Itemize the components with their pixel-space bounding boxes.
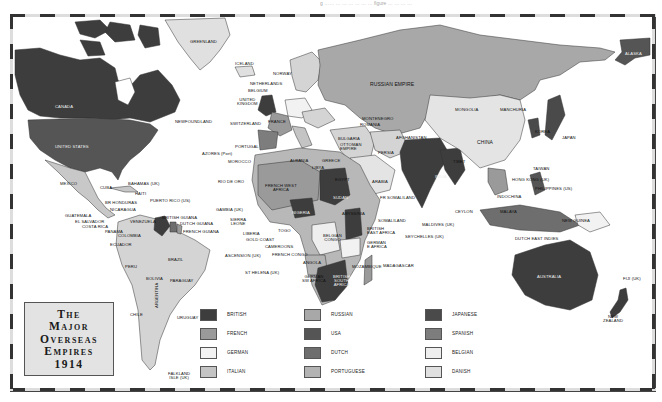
title-line-4: Empires <box>25 345 113 358</box>
label-british-east-africa: BRITISH EAST AFRICA <box>367 227 395 235</box>
label-albania: ALBANIA <box>290 159 308 163</box>
legend-label: USA <box>331 331 341 336</box>
label-paraguay: PARAGUAY <box>170 279 193 283</box>
label-korea: KOREA <box>535 130 550 134</box>
label-russian-empire: RUSSIAN EMPIRE <box>370 82 414 87</box>
label-sierra-leone: SIERRA LEONE <box>230 218 246 226</box>
label-british-guiana: BRITISH GUIANA <box>162 216 197 220</box>
label-abyssinia: ABYSSINIA <box>342 212 365 216</box>
label-dutch-guiana: DUTCH GUIANA <box>180 222 213 226</box>
label-new-zealand: NEW ZEALAND <box>603 315 623 323</box>
label-brazil: BRAZIL <box>168 258 183 262</box>
region-iceland <box>235 66 255 77</box>
label-nigeria: NIGERIA <box>292 211 310 215</box>
region-usa <box>28 118 158 180</box>
label-fr-somaliland: FR SOMALILAND <box>380 196 415 200</box>
label-egypt: EGYPT <box>335 178 350 182</box>
label-seychelles: SEYCHELLES (UK) <box>405 235 444 239</box>
legend-item-spanish: SPANISH <box>425 327 473 340</box>
label-haiti: HAITI <box>135 192 146 196</box>
region-korea <box>528 118 540 138</box>
label-mozambique: MOZAMBIQUE <box>352 265 382 269</box>
label-china: CHINA <box>477 140 493 145</box>
label-newfoundland: NEWFOUNDLAND <box>175 120 212 124</box>
label-german-sw-africa: GERMAN SW AFRICA <box>302 275 326 283</box>
label-arabia: ARABIA <box>372 180 388 184</box>
legend-item-usa: USA <box>304 327 341 340</box>
legend-swatch <box>200 309 217 321</box>
label-libya: LIBYA <box>312 166 324 170</box>
legend-swatch <box>200 366 217 378</box>
region-madagascar <box>364 255 372 285</box>
label-french-guiana: FRENCH GUIANA <box>183 230 219 234</box>
region-italy <box>292 126 312 148</box>
title-line-5: 1914 <box>25 358 113 371</box>
legend-label: DANISH <box>452 369 471 374</box>
label-belgian-congo: BELGIAN CONGO <box>323 234 342 242</box>
label-malaya: MALAYA <box>500 210 517 214</box>
label-gold-coast: GOLD COAST <box>246 238 274 242</box>
legend-label: SPANISH <box>452 331 473 336</box>
page-top-text: g …… … … … … … … figure … … … … <box>320 0 660 6</box>
legend-swatch <box>304 366 321 378</box>
legend-label: BELGIAN <box>452 350 473 355</box>
label-madagascar: MADAGASCAR <box>383 264 414 268</box>
label-belgium: BELGIUM <box>248 89 268 93</box>
label-tibet: TIBET <box>453 160 465 164</box>
label-australia: AUSTRALIA <box>537 275 561 279</box>
label-new-guinea: NEW GUINEA <box>562 219 590 223</box>
region-dutch-guiana <box>170 222 177 232</box>
legend-label: PORTUGUESE <box>331 369 365 374</box>
label-cuba: CUBA <box>100 186 112 190</box>
label-german-east-africa: GERMAN E AFRICA <box>367 241 387 249</box>
label-ottoman: OTTOMAN EMPIRE <box>340 143 362 151</box>
title-line-2: Major <box>25 320 113 333</box>
label-manchuria: MANCHURIA <box>500 108 526 112</box>
label-gambia: GAMBIA (UK) <box>216 208 243 212</box>
label-venezuela: VENEZUELA <box>130 220 156 224</box>
legend-label: ITALIAN <box>227 369 245 374</box>
map-title-box: The Major Overseas Empires 1914 <box>24 302 114 376</box>
region-burma <box>440 148 465 185</box>
label-netherlands: NETHERLANDS <box>250 82 282 86</box>
region-canada-arctic <box>75 20 160 56</box>
label-france: FRANCE <box>268 120 286 124</box>
label-taiwan: TAIWAN <box>533 167 549 171</box>
title-line-1: The <box>25 308 113 321</box>
border-bottom <box>10 388 656 391</box>
label-canada: CANADA <box>55 105 73 109</box>
legend-item-dutch: DUTCH <box>304 346 348 359</box>
label-togo: TOGO <box>278 229 291 233</box>
legend-swatch <box>425 366 442 378</box>
label-guatemala: GUATEMALA <box>65 214 91 218</box>
label-azores: AZORES (Port) <box>202 152 232 156</box>
region-south-america <box>116 215 210 370</box>
legend-item-french: FRENCH <box>200 327 247 340</box>
label-portugal: PORTUGAL <box>235 145 259 149</box>
label-ceylon: CEYLON <box>455 210 473 214</box>
label-liberia: LIBERIA <box>243 232 260 236</box>
label-switzerland: SWITZERLAND <box>230 122 261 126</box>
label-iceland: ICELAND <box>235 62 254 66</box>
label-rio-de-oro: RIO DE ORO <box>218 180 244 184</box>
label-indochina: INDOCHINA <box>497 195 521 199</box>
legend-swatch <box>200 347 217 359</box>
legend-swatch <box>425 347 442 359</box>
label-st-helena: ST HELENA (UK) <box>245 271 279 275</box>
label-peru: PERU <box>125 265 137 269</box>
legend-label: RUSSIAN <box>331 312 353 317</box>
label-greenland: GREENLAND <box>190 40 217 44</box>
label-french-congo: FRENCH CONGO <box>272 253 308 257</box>
label-argentina: ARGENTINA <box>155 283 159 308</box>
legend-swatch <box>304 309 321 321</box>
label-ecuador: ECUADOR <box>110 243 132 247</box>
label-cameroons: CAMEROONS <box>265 245 293 249</box>
legend-item-german: GERMAN <box>200 346 248 359</box>
label-romania: ROMANIA <box>360 123 380 127</box>
label-greece: GREECE <box>322 159 340 163</box>
label-angola: ANGOLA <box>303 261 321 265</box>
legend-swatch <box>425 309 442 321</box>
label-bulgaria: BULGARIA <box>338 137 360 141</box>
legend-swatch <box>200 328 217 340</box>
region-canada <box>15 48 180 122</box>
